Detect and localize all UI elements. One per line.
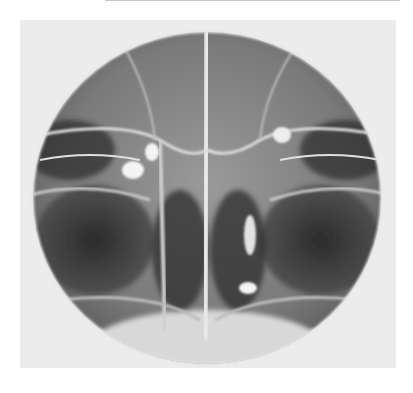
radiograph-image bbox=[0, 0, 413, 393]
